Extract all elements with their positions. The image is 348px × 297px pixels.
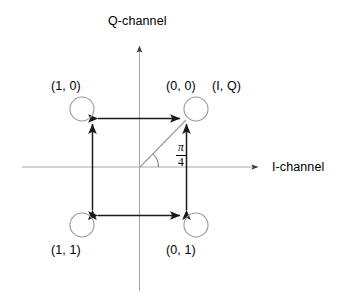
symbol-circle-bottom-left [70,213,94,237]
symbol-circle-bottom-right [184,213,208,237]
angle-arc [153,154,158,167]
angle-numerator: π [176,142,186,156]
symbol-circle-top-right [184,97,208,121]
i-channel-axis-label: I-channel [272,160,324,174]
pi-over-4-angle-label: π 4 [176,142,186,168]
angle-denominator: 4 [176,156,186,169]
q-channel-axis-label: Q-channel [108,14,167,28]
symbol-label-bottom-right: (0, 1) [166,243,196,257]
symbol-circle-top-left [70,97,94,121]
symbol-label-top-right: (0, 0) [166,79,196,93]
qpsk-constellation-figure: Q-channel I-channel (1, 0) (0, 0) (I, Q)… [0,0,348,297]
symbol-label-top-left: (1, 0) [51,79,81,93]
symbol-label-bottom-left: (1, 1) [51,243,81,257]
iq-pair-legend-label: (I, Q) [212,79,241,93]
